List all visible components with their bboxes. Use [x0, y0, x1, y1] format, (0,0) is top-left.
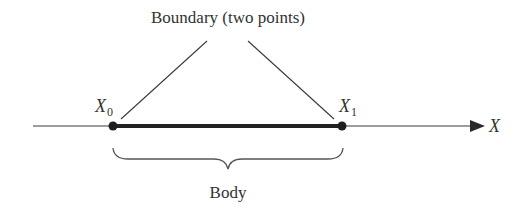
right-boundary-leader-line: [248, 41, 334, 119]
boundary-body-diagram: Boundary (two points) X X0 X1 Body: [0, 0, 523, 215]
x-axis-label: X: [488, 116, 501, 136]
x0-subscript: 0: [107, 105, 113, 119]
boundary-point-x1: [338, 122, 347, 131]
x1-subscript: 1: [351, 105, 357, 119]
x0-symbol: X: [94, 96, 107, 116]
x1-label: X1: [338, 96, 357, 119]
diagram-canvas: Boundary (two points) X X0 X1 Body: [0, 0, 523, 215]
x0-label: X0: [94, 96, 113, 119]
x1-symbol: X: [338, 96, 351, 116]
body-brace: [113, 148, 343, 169]
left-boundary-leader-line: [121, 41, 207, 119]
body-label: Body: [210, 183, 247, 202]
boundary-point-x0: [109, 122, 118, 131]
x-axis-arrowhead-icon: [470, 120, 485, 132]
boundary-title: Boundary (two points): [151, 8, 305, 27]
